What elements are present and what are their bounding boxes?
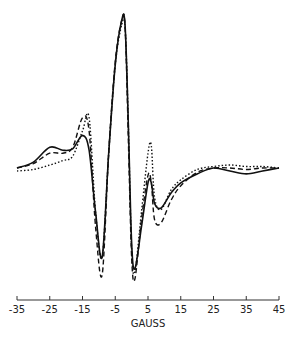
epr-spectrum-chart: -35-25-15-5515253545 GAUSS xyxy=(0,0,300,343)
series-solid xyxy=(17,14,279,269)
spectrum-curves xyxy=(17,14,279,281)
x-tick-label: 35 xyxy=(240,304,253,315)
series-dotted xyxy=(17,17,279,274)
x-tick-label: -15 xyxy=(74,304,90,315)
chart-svg: -35-25-15-5515253545 GAUSS xyxy=(0,0,300,343)
x-axis: -35-25-15-5515253545 xyxy=(9,296,286,315)
x-tick-label: 25 xyxy=(207,304,220,315)
x-tick-label: 5 xyxy=(145,304,151,315)
x-tick-label: -25 xyxy=(42,304,58,315)
x-tick-label: -35 xyxy=(9,304,25,315)
x-tick-label: -5 xyxy=(110,304,120,315)
x-tick-label: 45 xyxy=(273,304,286,315)
x-tick-label: 15 xyxy=(174,304,187,315)
x-axis-label: GAUSS xyxy=(131,318,166,329)
